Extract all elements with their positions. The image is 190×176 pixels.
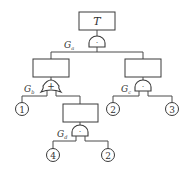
- gate-gb-or: +: [41, 80, 61, 92]
- fault-tree-diagram: T · Ga + Gb 1 · Gd 4 2 · Gc: [0, 0, 190, 176]
- svg-text:·: ·: [142, 82, 145, 91]
- intermediate-event-lower: [63, 104, 98, 122]
- gate-gc-and: ·: [135, 80, 151, 91]
- gate-gd-and: ·: [72, 125, 88, 136]
- gate-gc-label: Gc: [121, 84, 131, 95]
- gate-gd-label: Gd: [57, 129, 67, 140]
- svg-text:+: +: [47, 81, 55, 91]
- svg-text:3: 3: [169, 105, 175, 115]
- intermediate-event-left: [33, 59, 69, 77]
- gate-gb-label: Gb: [24, 84, 34, 95]
- gate-ga-label: Ga: [64, 40, 74, 51]
- svg-text:2: 2: [110, 105, 116, 115]
- svg-text:4: 4: [50, 151, 56, 161]
- svg-text:2: 2: [105, 151, 111, 161]
- svg-text:·: ·: [79, 127, 82, 136]
- svg-text:1: 1: [19, 105, 25, 115]
- intermediate-event-right: [125, 59, 161, 77]
- gate-ga-and: ·: [89, 36, 105, 47]
- svg-text:·: ·: [96, 38, 99, 47]
